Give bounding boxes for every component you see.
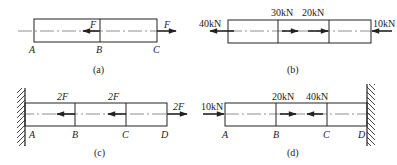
axial-bar-diagrams: F F A B C (a) 40kN 30kN 20kN 10kN (b) 2F… <box>0 0 397 165</box>
force-label: 30kN <box>271 7 293 18</box>
force-label: 40kN <box>306 91 328 102</box>
point-label-d: D <box>357 129 366 140</box>
point-label-c: C <box>153 44 160 55</box>
point-label-a: A <box>221 129 229 140</box>
point-label-d: D <box>160 129 169 140</box>
point-label-b: B <box>273 129 279 140</box>
panel-b: 40kN 30kN 20kN 10kN (b) <box>199 7 395 76</box>
wall-hatch <box>17 88 25 146</box>
point-label-a: A <box>28 44 36 55</box>
bar-body <box>25 103 167 126</box>
force-label: 20kN <box>302 7 324 18</box>
panel-c: 2F 2F 2F A B C D (c) <box>17 88 187 159</box>
point-label-a: A <box>28 129 36 140</box>
force-label: 10kN <box>201 101 223 112</box>
force-label: F <box>89 19 97 30</box>
panel-a: F F A B C (a) <box>18 19 176 76</box>
point-label-b: B <box>72 129 78 140</box>
panel-caption: (c) <box>94 147 105 159</box>
force-label: 2F <box>108 91 120 102</box>
force-label: F <box>163 19 171 30</box>
point-label-b: B <box>96 44 102 55</box>
wall-hatch <box>367 84 375 146</box>
force-label: 10kN <box>373 18 395 29</box>
force-label: 20kN <box>272 91 294 102</box>
force-label: 40kN <box>199 18 221 29</box>
force-label: 2F <box>173 101 185 112</box>
bar-body <box>228 20 371 43</box>
panel-caption: (b) <box>287 64 299 76</box>
panel-caption: (d) <box>287 147 299 159</box>
force-label: 2F <box>57 91 69 102</box>
panel-d: 10kN 20kN 40kN A B C D (d) <box>201 84 375 159</box>
panel-caption: (a) <box>93 64 104 76</box>
point-label-c: C <box>323 129 330 140</box>
point-label-c: C <box>122 129 129 140</box>
